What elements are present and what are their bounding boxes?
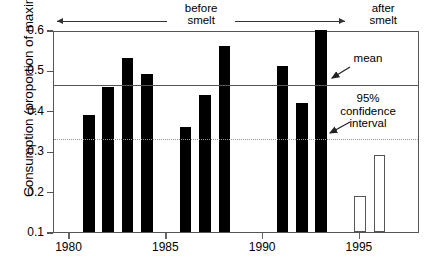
- bar-1996: [374, 155, 386, 232]
- mean-annotation: mean: [340, 52, 396, 65]
- bar-1984: [141, 74, 153, 232]
- x-tick-mark: [262, 233, 263, 239]
- before-smelt-label: beforesmelt: [167, 2, 235, 27]
- x-tick-label: 1995: [336, 240, 382, 254]
- before-smelt-arrow-left: [57, 18, 63, 24]
- bar-1991: [277, 66, 289, 232]
- y-tick-label: 0.2: [10, 185, 44, 199]
- y-tick-label: 0.3: [10, 144, 44, 158]
- bar-1992: [296, 103, 308, 232]
- bar-1993: [315, 30, 327, 232]
- mean-line: [54, 85, 418, 86]
- bar-1982: [102, 87, 114, 232]
- x-tick-label: 1980: [45, 240, 91, 254]
- y-tick-label: 0.1: [10, 225, 44, 239]
- bar-1986: [180, 127, 192, 232]
- after-smelt-label-line2: smelt: [349, 14, 417, 26]
- x-tick-label: 1990: [239, 240, 285, 254]
- after-smelt-label-line1: after: [349, 2, 417, 14]
- ci-annotation-line2: confidence: [332, 105, 404, 118]
- before-smelt-arrow-right: [339, 18, 345, 24]
- x-tick-mark: [359, 233, 360, 239]
- before-smelt-label-line1: before: [167, 2, 235, 14]
- x-tick-mark: [68, 233, 69, 239]
- x-tick-mark: [165, 233, 166, 239]
- y-tick-label: 0.4: [10, 104, 44, 118]
- ci-annotation: 95% confidence interval: [332, 92, 404, 130]
- ci-annotation-line1: 95%: [332, 92, 404, 105]
- bar-1987: [199, 95, 211, 232]
- after-smelt-label: aftersmelt: [349, 2, 417, 27]
- ci-annotation-line3: interval: [332, 117, 404, 130]
- bar-1995: [354, 196, 366, 232]
- figure: Consumption (proportion of maximum) 0.60…: [0, 0, 434, 258]
- x-tick-label: 1985: [142, 240, 188, 254]
- y-tick-label: 0.5: [10, 63, 44, 77]
- bar-1981: [83, 115, 95, 232]
- before-smelt-label-line2: smelt: [167, 14, 235, 26]
- y-tick-label: 0.6: [10, 23, 44, 37]
- ci_lower-line: [54, 139, 418, 140]
